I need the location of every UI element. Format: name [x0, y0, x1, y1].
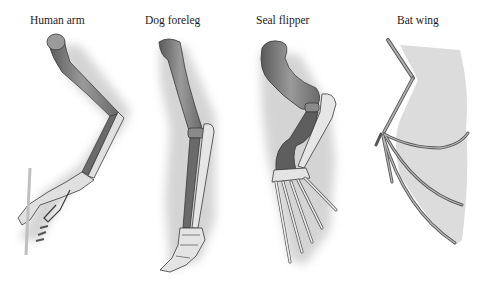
dog-elbow — [188, 128, 204, 138]
dog-paw-bones — [160, 228, 205, 272]
bat-wing-illustration — [376, 40, 468, 245]
seal-flipper-illustration — [260, 41, 336, 265]
seal-elbow — [305, 103, 319, 112]
homologous-limbs-figure: Human arm Dog foreleg Seal flipper Bat w… — [0, 0, 481, 285]
human-arm-illustration — [18, 34, 130, 255]
limbs-illustration — [0, 0, 481, 285]
human-humerus-head — [47, 34, 65, 50]
dog-foreleg-illustration — [159, 39, 215, 272]
bat-membrane — [396, 45, 467, 245]
pencil — [26, 168, 30, 255]
